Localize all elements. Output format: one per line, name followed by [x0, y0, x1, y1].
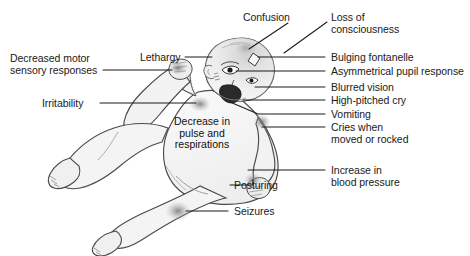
- label-increase-in-blood-pressure: Increase in blood pressure: [331, 164, 400, 188]
- label-loss-of-consciousness: Loss of consciousness: [331, 11, 399, 35]
- label-confusion: Confusion: [243, 11, 290, 23]
- spot-confusion-head: [234, 40, 258, 56]
- label-high-pitched-cry: High-pitched cry: [331, 94, 406, 106]
- spot-irritability: [189, 96, 211, 112]
- label-vomiting: Vomiting: [331, 108, 371, 120]
- icp-infant-diagram: Decreased motor sensory responses Irrita…: [0, 0, 470, 256]
- label-decreased-motor-sensory-responses: Decreased motor sensory responses: [10, 52, 97, 76]
- spot-cries-when-moved: [253, 114, 271, 130]
- label-asymmetrical-pupil-response: Asymmetrical pupil response: [331, 65, 464, 77]
- label-blurred-vision: Blurred vision: [331, 81, 394, 93]
- label-cries-when-moved-or-rocked: Cries when moved or rocked: [331, 121, 408, 145]
- label-posturing: Posturing: [234, 179, 278, 191]
- leader-confusion: [249, 23, 288, 49]
- leader-loss-of-consciousness: [284, 22, 327, 53]
- label-irritability: Irritability: [42, 97, 83, 109]
- label-decrease-in-pulse-and-respirations: Decrease in pulse and respirations: [160, 116, 244, 151]
- label-lethargy: Lethargy: [140, 51, 180, 63]
- label-bulging-fontanelle: Bulging fontanelle: [331, 51, 414, 63]
- label-seizures: Seizures: [234, 205, 274, 217]
